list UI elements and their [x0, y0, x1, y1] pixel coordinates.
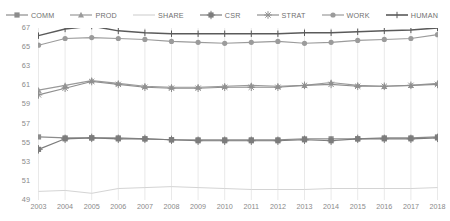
x-axis-tick-label: 2007 [131, 203, 159, 211]
x-axis-tick-label: 2005 [78, 203, 106, 211]
data-point-marker [88, 78, 96, 86]
x-axis-tick-label: 2010 [211, 203, 239, 211]
series-line [39, 187, 438, 194]
x-axis-tick-label: 2011 [237, 203, 265, 211]
x-axis-tick-label: 2014 [317, 203, 345, 211]
data-point-marker [196, 40, 201, 45]
data-point-marker [327, 81, 335, 89]
legend-item-share[interactable]: SHARE [133, 10, 184, 20]
data-point-marker [221, 83, 229, 91]
data-point-marker [329, 40, 334, 45]
data-point-marker [61, 135, 69, 143]
data-point-marker [141, 135, 149, 143]
data-point-marker [248, 83, 256, 91]
legend-item-work[interactable]: WORK [322, 10, 370, 20]
chart-canvas [38, 28, 438, 200]
data-point-marker [168, 84, 176, 92]
data-point-marker [274, 137, 282, 145]
legend-item-human[interactable]: HUMAN [386, 10, 438, 20]
data-point-marker [167, 136, 175, 144]
data-point-marker [407, 135, 415, 143]
legend-swatch-icon [70, 10, 92, 20]
data-point-marker [38, 145, 43, 153]
legend-swatch-icon [257, 10, 279, 20]
x-axis-tick-label: 2015 [344, 203, 372, 211]
data-point-marker [327, 137, 335, 145]
data-point-marker [14, 12, 19, 17]
data-point-marker [249, 40, 254, 45]
legend-item-strat[interactable]: STRAT [257, 10, 306, 20]
series-line [39, 35, 438, 46]
legend-item-comm[interactable]: COMM [6, 10, 55, 20]
data-point-marker [380, 135, 388, 143]
x-axis-tick-label: 2004 [51, 203, 79, 211]
data-point-marker [434, 81, 438, 89]
data-point-marker [141, 83, 149, 91]
y-axis-tick-label: 63 [4, 62, 30, 70]
data-point-marker [142, 37, 147, 42]
y-axis-tick-label: 53 [4, 158, 30, 166]
data-point-marker [115, 81, 123, 89]
data-point-marker [38, 134, 41, 139]
series-prod [38, 77, 438, 92]
data-point-marker [194, 137, 202, 145]
series-csr [38, 134, 438, 154]
data-point-marker [63, 36, 68, 41]
data-point-marker [38, 43, 41, 48]
legend-label: COMM [31, 11, 55, 20]
x-axis-tick-label: 2017 [397, 203, 425, 211]
data-point-marker [114, 135, 122, 143]
y-axis-tick-label: 57 [4, 120, 30, 128]
y-axis-tick-label: 65 [4, 43, 30, 51]
legend-label: PROD [95, 11, 117, 20]
data-point-marker [300, 136, 308, 144]
series-share [39, 187, 438, 194]
data-point-marker [169, 39, 174, 44]
data-point-marker [116, 36, 121, 41]
data-point-marker [88, 134, 96, 142]
data-point-marker [354, 82, 362, 90]
gridlines [39, 28, 438, 200]
x-axis-tick-label: 2003 [25, 203, 53, 211]
chart-legend: COMMPRODSHARECSRSTRATWORKHUMAN [0, 6, 444, 24]
data-point-marker [89, 35, 94, 40]
legend-label: STRAT [282, 11, 306, 20]
data-point-marker [222, 41, 227, 46]
data-point-marker [435, 32, 438, 37]
legend-item-prod[interactable]: PROD [70, 10, 117, 20]
x-axis-tick-label: 2009 [184, 203, 212, 211]
series-line [39, 28, 438, 36]
y-axis-tick-label: 67 [4, 24, 30, 32]
data-point-marker [381, 82, 389, 90]
data-point-marker [207, 11, 215, 19]
legend-swatch-icon [200, 10, 222, 20]
data-point-marker [194, 84, 202, 92]
x-axis-tick-label: 2008 [158, 203, 186, 211]
legend-label: CSR [225, 11, 241, 20]
legend-swatch-icon [386, 10, 408, 20]
series-human [39, 28, 438, 39]
plot-area [38, 28, 438, 200]
data-point-marker [275, 39, 280, 44]
data-point-marker [354, 135, 362, 143]
data-point-marker [301, 82, 309, 90]
x-axis-tick-label: 2006 [104, 203, 132, 211]
legend-label: HUMAN [411, 11, 438, 20]
legend-swatch-icon [133, 10, 155, 20]
series-line [39, 82, 438, 95]
legend-swatch-icon [6, 10, 28, 20]
data-point-marker [382, 37, 387, 42]
data-point-marker [407, 82, 415, 90]
y-axis-tick-label: 55 [4, 139, 30, 147]
legend-label: WORK [347, 11, 370, 20]
y-axis-tick-label: 51 [4, 177, 30, 185]
y-axis-tick-label: 59 [4, 100, 30, 108]
data-point-marker [247, 137, 255, 145]
legend-item-csr[interactable]: CSR [200, 10, 241, 20]
data-point-marker [355, 38, 360, 43]
data-point-marker [302, 41, 307, 46]
x-axis-tick-label: 2013 [291, 203, 319, 211]
y-axis-tick-label: 61 [4, 81, 30, 89]
data-point-marker [264, 11, 272, 19]
